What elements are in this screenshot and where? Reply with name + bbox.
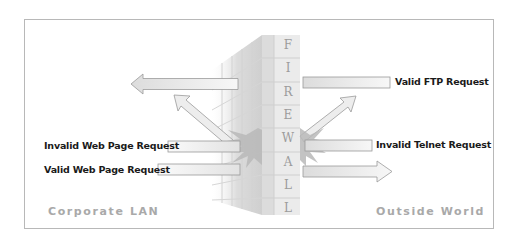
valid-web-request-label: Valid Web Page Request — [44, 164, 170, 175]
wall-letter-r: R — [280, 85, 296, 99]
invalid-web-request-label: Invalid Web Page Request — [44, 140, 179, 151]
invalid-telnet-request-label: Invalid Telnet Request — [376, 139, 491, 150]
valid-ftp-request-label: Valid FTP Request — [395, 76, 489, 87]
wall-letter-f: F — [280, 38, 296, 52]
wall-letter-l2: L — [280, 201, 296, 215]
invalid-telnet-request-bar — [305, 140, 372, 151]
wall-letter-w: W — [280, 131, 296, 145]
right-outgoing-arrow — [303, 161, 392, 182]
wall-letter-l1: L — [280, 178, 296, 192]
valid-web-request-bar — [158, 164, 240, 175]
zone-label-corporate-lan: Corporate LAN — [48, 205, 159, 218]
wall-letter-e: E — [280, 108, 296, 122]
zone-label-outside-world: Outside World — [376, 205, 485, 218]
wall-side-face — [212, 35, 262, 215]
valid-ftp-request-bar — [303, 77, 390, 88]
wall-letter-i: I — [280, 61, 296, 75]
wall-letter-a: A — [280, 155, 296, 169]
